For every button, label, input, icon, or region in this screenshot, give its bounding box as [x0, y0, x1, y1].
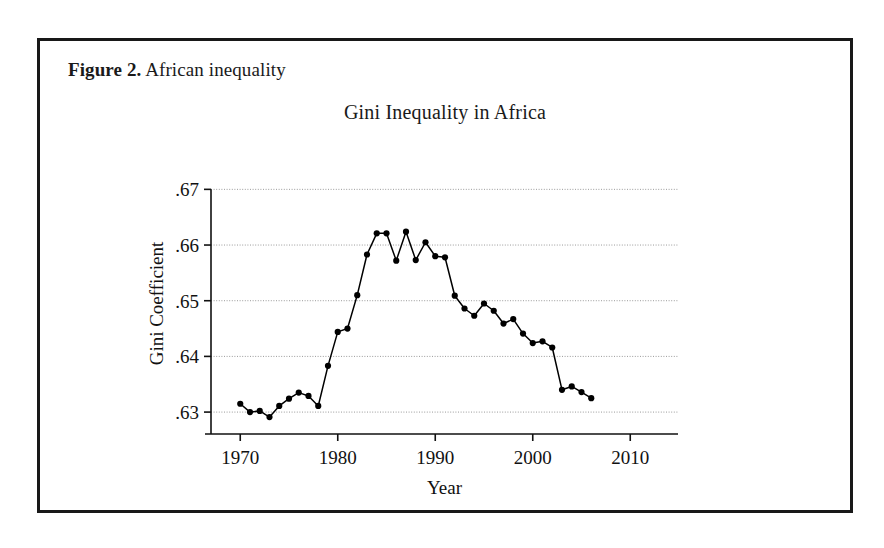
- data-point-marker: [471, 313, 477, 319]
- data-point-marker: [520, 330, 526, 336]
- data-point-marker: [403, 229, 409, 235]
- data-point-marker: [383, 230, 389, 236]
- data-point-marker: [286, 396, 292, 402]
- data-point-marker: [374, 230, 380, 236]
- data-point-marker: [335, 329, 341, 335]
- y-axis-title: Gini Coefficient: [146, 241, 167, 365]
- data-point-marker: [422, 239, 428, 245]
- data-point-marker: [247, 409, 253, 415]
- data-point-marker: [413, 257, 419, 263]
- data-point-marker: [481, 300, 487, 306]
- y-tick-label: .64: [175, 346, 199, 367]
- y-tick-label: .65: [175, 291, 199, 312]
- data-point-marker: [452, 293, 458, 299]
- y-tick-label: .66: [175, 235, 199, 256]
- data-point-marker: [461, 305, 467, 311]
- data-point-marker: [500, 320, 506, 326]
- data-point-marker: [569, 383, 575, 389]
- data-point-marker: [266, 414, 272, 420]
- y-tick-label: .67: [175, 179, 199, 200]
- data-point-marker: [237, 401, 243, 407]
- data-point-marker: [257, 408, 263, 414]
- data-point-marker: [315, 403, 321, 409]
- data-point-marker: [393, 258, 399, 264]
- data-point-marker: [549, 344, 555, 350]
- data-point-marker: [578, 389, 584, 395]
- data-point-marker: [305, 393, 311, 399]
- data-point-marker: [364, 251, 370, 257]
- data-point-marker: [491, 308, 497, 314]
- data-point-marker: [325, 363, 331, 369]
- x-tick-label: 1990: [416, 447, 454, 468]
- x-tick-label: 2000: [514, 447, 552, 468]
- data-point-marker: [559, 387, 565, 393]
- y-tick-label: .63: [175, 402, 199, 423]
- data-point-marker: [344, 325, 350, 331]
- data-point-marker: [432, 253, 438, 259]
- data-point-marker: [442, 254, 448, 260]
- data-point-marker: [354, 292, 360, 298]
- data-point-marker: [296, 389, 302, 395]
- x-tick-label: 2010: [611, 447, 649, 468]
- figure-frame: Figure 2. African inequality Gini Inequa…: [37, 38, 853, 513]
- data-point-marker: [539, 338, 545, 344]
- x-tick-label: 1980: [319, 447, 357, 468]
- x-axis-title: Year: [427, 477, 463, 498]
- data-point-marker: [276, 403, 282, 409]
- data-point-marker: [530, 340, 536, 346]
- line-chart: .63.64.65.66.6719701980199020002010YearG…: [40, 41, 850, 510]
- x-tick-label: 1970: [221, 447, 259, 468]
- data-point-marker: [588, 395, 594, 401]
- data-point-marker: [510, 316, 516, 322]
- chart-area: Gini Inequality in Africa .63.64.65.66.6…: [40, 41, 850, 510]
